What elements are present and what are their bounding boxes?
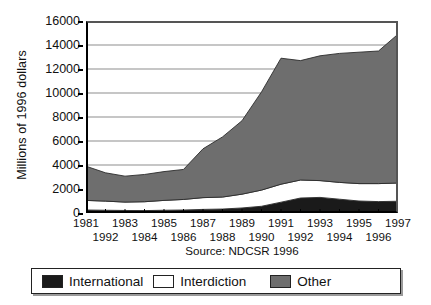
y-tick-label: 6000: [18, 135, 80, 147]
y-tick-mark: [78, 69, 83, 71]
x-tick-label: 1995: [346, 216, 372, 229]
x-tick-label: 1986: [171, 230, 197, 243]
x-tick-label: 1985: [151, 216, 177, 229]
y-tick-label: 8000: [18, 111, 80, 123]
chart-figure: Millions of 1996 dollars 160001400012000…: [0, 0, 431, 305]
y-tick-mark: [78, 141, 83, 143]
legend-swatch-icon: [153, 275, 174, 288]
x-tick-label: 1993: [307, 216, 333, 229]
y-tick-mark: [78, 117, 83, 119]
y-tick-mark: [78, 21, 83, 23]
legend-label: International: [69, 274, 143, 289]
y-tick-label: 10000: [18, 87, 80, 99]
y-tick-label: 12000: [18, 63, 80, 75]
x-tick-label: 1989: [229, 216, 255, 229]
y-axis-tick-labels: 1600014000120001000080006000400020000: [14, 0, 80, 240]
y-tick-label: 14000: [18, 39, 80, 51]
area-chart-svg: [86, 21, 398, 213]
y-tick-mark: [78, 189, 83, 191]
x-tick-label: 1996: [366, 230, 392, 243]
y-tick-mark: [78, 93, 83, 95]
y-tick-mark: [78, 213, 83, 215]
legend-item-interdiction[interactable]: Interdiction: [153, 274, 246, 289]
plot-area: [86, 21, 398, 213]
x-tick-label: 1984: [132, 230, 158, 243]
chart-legend: InternationalInterdictionOther: [31, 268, 401, 294]
x-tick-label: 1990: [249, 230, 275, 243]
legend-item-international[interactable]: International: [42, 274, 143, 289]
source-note: Source: NDCSR 1996: [86, 244, 398, 257]
x-tick-label: 1987: [190, 216, 216, 229]
legend-swatch-icon: [42, 275, 63, 288]
x-tick-label: 1992: [288, 230, 314, 243]
y-tick-label: 4000: [18, 159, 80, 171]
y-tick-label: 2000: [18, 183, 80, 195]
y-tick-label: 16000: [18, 15, 80, 27]
x-axis-tick-labels-row1: 198119831985198719891991199319951997: [86, 216, 398, 230]
x-tick-label: 1994: [327, 230, 353, 243]
legend-item-other[interactable]: Other: [270, 274, 331, 289]
x-tick-label: 1988: [210, 230, 236, 243]
stacked-area-plot: [86, 21, 398, 213]
x-tick-label: 1981: [73, 216, 99, 229]
x-tick-label: 1991: [268, 216, 294, 229]
x-tick-label: 1983: [112, 216, 138, 229]
x-axis-tick-labels-row2: 19921984198619881990199219941996: [86, 230, 398, 244]
y-tick-mark: [78, 165, 83, 167]
area-series-other: [86, 34, 398, 202]
y-tick-mark: [78, 45, 83, 47]
x-tick-label: 1997: [385, 216, 411, 229]
legend-swatch-icon: [270, 275, 291, 288]
y-tick-label: 0: [18, 207, 80, 219]
legend-label: Other: [297, 274, 331, 289]
x-tick-label: 1992: [93, 230, 119, 243]
legend-label: Interdiction: [180, 274, 246, 289]
